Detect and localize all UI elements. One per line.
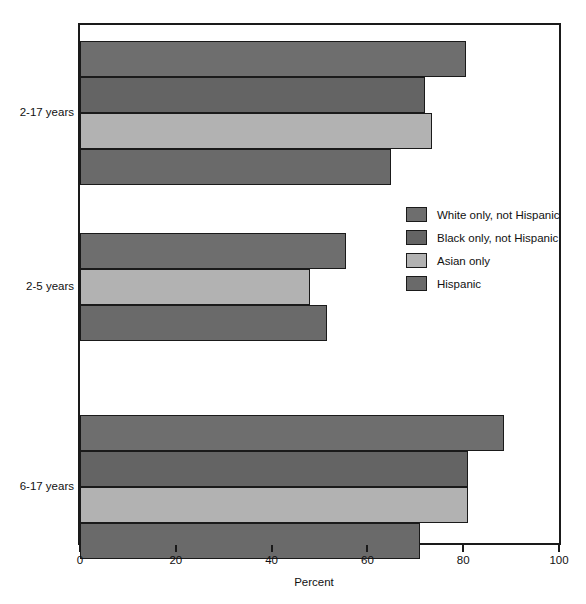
legend-label-asian: Asian only	[437, 255, 490, 267]
x-axis-title-text: Percent	[252, 576, 334, 588]
x-tick-60	[366, 545, 368, 552]
legend-swatch-black	[406, 230, 427, 245]
legend-item-hispanic: Hispanic	[406, 272, 582, 295]
bar-2-5-years-asian	[80, 269, 310, 305]
bar-2-17-years-black	[80, 77, 425, 113]
y-axis-label-2-17-years: 2-17 years	[2, 106, 74, 118]
y-axis-label-2-5-years: 2-5 years	[2, 280, 74, 292]
legend-label-black: Black only, not Hispanic	[437, 232, 558, 244]
legend-swatch-white	[406, 207, 427, 222]
legend-swatch-hispanic	[406, 276, 427, 291]
legend-swatch-asian	[406, 253, 427, 268]
x-tick-label-0: 0	[77, 554, 83, 566]
legend-label-white: White only, not Hispanic	[437, 209, 560, 221]
legend-item-white: White only, not Hispanic	[406, 203, 582, 226]
x-tick-40	[271, 545, 273, 552]
bar-6-17-years-asian	[80, 487, 468, 523]
x-tick-20	[175, 545, 177, 552]
x-tick-label-60: 60	[361, 554, 374, 566]
x-tick-label-40: 40	[265, 554, 278, 566]
bar-2-17-years-white	[80, 41, 466, 77]
chart-legend: White only, not HispanicBlack only, not …	[406, 203, 582, 295]
y-axis-label-6-17-years: 6-17 years	[2, 480, 74, 492]
x-tick-label-100: 100	[549, 554, 568, 566]
bar-chart: 2-17 years2-5 years6-17 years 0204060801…	[0, 0, 586, 604]
x-axis-title: Percent	[0, 576, 586, 588]
bar-6-17-years-white	[80, 415, 504, 451]
x-tick-label-20: 20	[169, 554, 182, 566]
legend-item-black: Black only, not Hispanic	[406, 226, 582, 249]
bar-2-5-years-hispanic	[80, 305, 327, 341]
bar-2-17-years-hispanic	[80, 149, 391, 185]
bar-2-17-years-asian	[80, 113, 432, 149]
legend-item-asian: Asian only	[406, 249, 582, 272]
bar-2-5-years-white	[80, 233, 346, 269]
x-tick-label-80: 80	[457, 554, 470, 566]
x-tick-80	[462, 545, 464, 552]
bar-6-17-years-black	[80, 451, 468, 487]
legend-label-hispanic: Hispanic	[437, 278, 481, 290]
x-tick-100	[558, 545, 560, 552]
x-tick-0	[79, 545, 81, 552]
